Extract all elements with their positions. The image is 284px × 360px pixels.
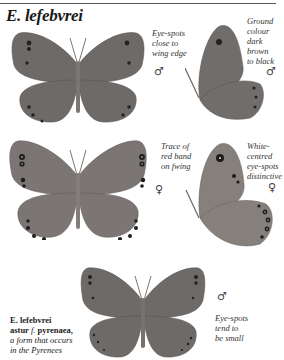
butterfly-upperside-icon [8, 25, 148, 125]
annotation-white-centred: White- centred eye-spots distinctive [247, 141, 282, 181]
female-symbol: ♀ [155, 183, 163, 196]
butterfly-male-upperside [8, 25, 148, 125]
caption-desc-2: in the Pyrenees [10, 345, 73, 355]
annotation-ground-colour: Ground colour dark brown to black [247, 16, 274, 66]
annotation-eye-spots-small: Eye-spots tend to be small [215, 313, 248, 343]
caption-form: astur f. pyrenaea, [10, 325, 73, 335]
form-caption: E. lefebvrei astur f. pyrenaea, a form t… [10, 315, 73, 355]
male-symbol: ♂ [266, 65, 276, 78]
male-symbol: ♂ [154, 65, 164, 78]
butterfly-upperside-icon [6, 135, 151, 240]
butterfly-female-upperside [6, 135, 151, 240]
page-title: E. lefebvrei [6, 6, 83, 26]
butterfly-upperside-icon [78, 262, 208, 360]
caption-species: E. lefebvrei [10, 315, 73, 325]
caption-desc-1: a form that occurs [10, 335, 73, 345]
annotation-eye-spots-edge: Eye-spots close to wing edge [152, 28, 187, 58]
female-symbol: ♀ [268, 181, 276, 194]
male-symbol: ♂ [217, 290, 227, 303]
header-rule [0, 3, 276, 4]
butterfly-astur-pyrenaea [78, 262, 208, 360]
